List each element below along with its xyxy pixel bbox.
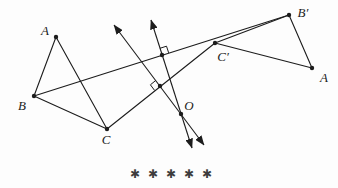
vertex-C-label: C xyxy=(102,132,111,147)
asterisk-separator: ✱ xyxy=(148,167,158,181)
asterisk-separator: ✱ xyxy=(184,167,194,181)
vertex-C-prime-label: C′ xyxy=(217,49,229,64)
figure-background xyxy=(0,0,338,188)
vertex-B-dot xyxy=(32,94,36,98)
asterisk-separator: ✱ xyxy=(130,167,140,181)
point-O-label: O xyxy=(184,98,194,113)
vertex-C-prime-dot xyxy=(213,41,217,45)
vertex-B-prime-dot xyxy=(287,13,291,17)
asterisk-separator: ✱ xyxy=(202,167,212,181)
point-O-dot xyxy=(179,112,183,116)
vertex-A-right-label: A xyxy=(319,70,328,85)
vertex-A-label: A xyxy=(40,23,49,38)
vertex-C-dot xyxy=(105,127,109,131)
asterisk-separator: ✱ xyxy=(166,167,176,181)
figure-svg: ABCB′C′AO✱✱✱✱✱ xyxy=(0,0,338,188)
vertex-B-prime-label: B′ xyxy=(298,5,309,20)
vertex-A-dot xyxy=(54,35,58,39)
vertex-B-label: B xyxy=(18,98,26,113)
midpoint-of-CC-prime-dot xyxy=(158,84,162,88)
midpoint-of-BB-prime-dot xyxy=(160,53,164,57)
vertex-A-right-dot xyxy=(310,66,314,70)
geometry-figure: ABCB′C′AO✱✱✱✱✱ xyxy=(0,0,338,188)
